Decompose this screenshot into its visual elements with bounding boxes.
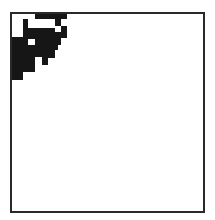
pattern-block	[42, 58, 48, 65]
pattern-block	[55, 19, 61, 26]
pattern-block	[55, 32, 61, 45]
pattern-block	[12, 37, 23, 72]
pixel-pattern	[0, 0, 215, 220]
pattern-block	[12, 72, 23, 80]
pattern-block	[28, 28, 55, 39]
pattern-block	[61, 26, 67, 38]
pattern-block	[42, 50, 55, 58]
pattern-block	[35, 50, 42, 57]
pattern-block	[28, 50, 35, 72]
pattern-block	[35, 14, 67, 19]
